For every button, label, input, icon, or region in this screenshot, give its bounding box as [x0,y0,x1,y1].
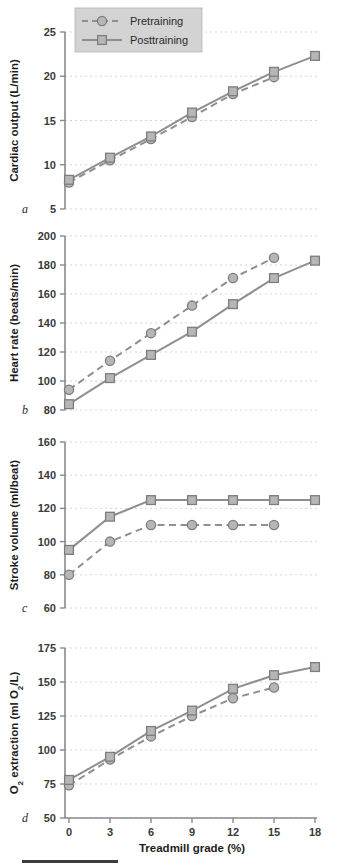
x-tick-label: 12 [227,826,239,838]
data-point-posttraining [147,351,156,360]
data-point-posttraining [188,108,197,117]
data-point-posttraining [147,727,156,736]
legend-marker-posttraining [98,36,107,45]
figure-root: 510152025Cardiac output (L/min)aPretrain… [0,0,337,867]
data-point-pretraining [269,520,278,529]
panel-letter-b: b [22,403,28,417]
panel-letter-d: d [22,811,29,825]
data-point-posttraining [229,300,238,309]
y-tick-label: 200 [38,230,56,242]
data-point-posttraining [106,512,115,521]
y-tick-label: 140 [38,469,56,481]
chart-legend: PretrainingPosttraining [75,8,202,52]
series-line-pretraining [69,258,274,390]
data-point-posttraining [65,776,74,785]
data-point-posttraining [106,374,115,383]
footer-rule [22,860,118,863]
x-tick-label: 3 [107,826,113,838]
data-point-posttraining [270,496,279,505]
y-axis-title: Stroke volume (ml/beat) [8,460,20,591]
data-point-posttraining [188,327,197,336]
y-tick-label: 80 [44,569,56,581]
series-line-posttraining [69,667,315,780]
y-tick-label: 100 [38,536,56,548]
y-tick-label: 160 [38,436,56,448]
chart-panel-a: 510152025Cardiac output (L/min)aPretrain… [0,0,337,222]
x-tick-label: 6 [148,826,154,838]
y-tick-label: 180 [38,259,56,271]
data-point-posttraining [270,274,279,283]
data-point-posttraining [147,496,156,505]
legend-label-posttraining: Posttraining [130,34,188,46]
data-point-posttraining [65,546,74,555]
legend-label-pretraining: Pretraining [130,15,183,27]
panel-letter-c: c [22,601,28,615]
data-point-posttraining [229,684,238,693]
y-tick-label: 25 [44,26,56,38]
y-tick-label: 60 [44,602,56,614]
data-point-posttraining [188,496,197,505]
data-point-posttraining [106,752,115,761]
x-tick-label: 0 [66,826,72,838]
data-point-posttraining [311,51,320,60]
data-point-pretraining [64,385,73,394]
y-tick-label: 120 [38,346,56,358]
data-point-posttraining [106,153,115,162]
y-axis-title: Cardiac output (L/min) [8,59,20,182]
chart-panel-b: 80100120140160180200Heart rate (beats/mi… [0,222,337,422]
data-point-pretraining [269,683,278,692]
y-tick-label: 15 [44,115,56,127]
y-tick-label: 50 [44,812,56,824]
chart-panel-d: 5075100125150175O2 extraction (ml O2/L)d… [0,632,337,867]
data-point-posttraining [270,671,279,680]
series-line-pretraining [69,525,274,575]
y-tick-label: 160 [38,288,56,300]
y-axis-title: O2 extraction (ml O2/L) [8,672,25,795]
y-tick-label: 20 [44,70,56,82]
series-line-pretraining [69,77,274,182]
y-tick-label: 140 [38,317,56,329]
data-point-posttraining [311,256,320,265]
y-tick-label: 175 [38,642,56,654]
data-point-pretraining [228,694,237,703]
x-tick-label: 15 [268,826,280,838]
data-point-posttraining [229,87,238,96]
data-point-pretraining [64,570,73,579]
data-point-pretraining [269,253,278,262]
data-point-posttraining [270,67,279,76]
y-tick-label: 150 [38,676,56,688]
data-point-posttraining [65,400,74,409]
y-axis-title: Heart rate (beats/min) [8,264,20,382]
data-point-pretraining [146,520,155,529]
data-point-posttraining [229,496,238,505]
y-tick-label: 5 [50,203,56,215]
series-line-pretraining [69,687,274,785]
data-point-pretraining [146,329,155,338]
y-tick-label: 125 [38,710,56,722]
x-axis-title: Treadmill grade (%) [139,842,245,854]
data-point-posttraining [188,706,197,715]
legend-marker-pretraining [97,16,106,25]
data-point-pretraining [187,301,196,310]
y-tick-label: 100 [38,375,56,387]
data-point-pretraining [228,273,237,282]
data-point-pretraining [105,356,114,365]
y-tick-label: 80 [44,404,56,416]
x-tick-label: 18 [309,826,321,838]
data-point-posttraining [65,175,74,184]
y-tick-label: 120 [38,502,56,514]
y-tick-label: 100 [38,744,56,756]
data-point-posttraining [311,496,320,505]
y-tick-label: 75 [44,778,56,790]
y-tick-label: 10 [44,159,56,171]
data-point-pretraining [105,537,114,546]
data-point-posttraining [147,132,156,141]
data-point-pretraining [228,520,237,529]
panel-letter-a: a [22,202,28,216]
data-point-pretraining [187,520,196,529]
chart-panel-c: 6080100120140160Stroke volume (ml/beat)c [0,422,337,632]
data-point-posttraining [311,663,320,672]
x-tick-label: 9 [189,826,195,838]
